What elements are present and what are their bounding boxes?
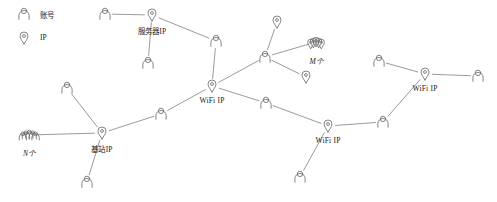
graph-node-wifi_ip_mid[interactable] <box>324 120 332 132</box>
person-icon <box>260 51 270 62</box>
pin-cluster-icon <box>308 37 325 49</box>
graph-node-pin_top_right[interactable] <box>273 16 281 28</box>
node-label-pin_cluster_m: M个 <box>309 55 322 66</box>
location-pin-icon <box>148 9 156 21</box>
location-pin-icon <box>273 16 281 28</box>
person-icon <box>82 176 92 187</box>
graph-edge <box>213 48 216 79</box>
graph-edge <box>272 44 309 55</box>
graph-edge <box>335 123 376 126</box>
person-icon <box>143 57 153 68</box>
person-icon <box>374 55 384 66</box>
graph-edge <box>267 29 274 50</box>
graph-edge <box>36 133 95 135</box>
graph-node-p_server_left[interactable] <box>100 8 110 19</box>
location-pin-icon <box>208 80 216 92</box>
person-icon <box>211 35 221 46</box>
node-label-wifi_ip_right: WiFi IP <box>412 84 437 93</box>
graph-edge <box>273 106 321 124</box>
location-pin-icon <box>98 127 106 139</box>
graph-node-p_mid_top[interactable] <box>211 35 221 46</box>
location-pin-icon <box>20 32 28 44</box>
graph-node-p_bs_upleft[interactable] <box>62 82 72 93</box>
graph-edge <box>386 63 418 72</box>
graph-edge <box>71 94 97 128</box>
graph-node-p_wifi3_top[interactable] <box>374 55 384 66</box>
graph-edge <box>219 88 259 101</box>
legend-item-0 <box>19 8 29 19</box>
graph-edge <box>109 116 154 131</box>
graph-node-server_ip[interactable] <box>148 9 156 21</box>
graph-edge <box>218 60 258 82</box>
graph-node-p_server_down[interactable] <box>143 57 153 68</box>
graph-node-wifi_ip_right[interactable] <box>421 68 429 80</box>
node-layer <box>19 8 483 187</box>
graph-node-p_bs_wifi[interactable] <box>156 108 166 119</box>
location-pin-icon <box>421 68 429 80</box>
graph-node-p_wifi2_top[interactable] <box>261 97 271 108</box>
node-label-wifi_ip_mid: WiFi IP <box>315 136 340 145</box>
graph-node-base_station_ip[interactable] <box>98 127 106 139</box>
location-pin-icon <box>302 71 310 83</box>
legend-label-1: IP <box>40 33 47 42</box>
graph-edge <box>432 74 471 75</box>
graph-node-p_wifi3_left[interactable] <box>378 116 388 127</box>
person-icon <box>295 171 305 182</box>
diagram-canvas <box>0 0 497 202</box>
graph-node-p_bs_down[interactable] <box>82 176 92 187</box>
graph-node-wifi_ip_center[interactable] <box>208 80 216 92</box>
legend-item-1 <box>20 32 28 44</box>
person-icon <box>156 108 166 119</box>
node-label-wifi_ip_center: WiFi IP <box>199 96 224 105</box>
network-diagram: 服务器IPWiFi IPM个WiFi IPWiFi IPN个基站IP账号IP <box>0 0 497 202</box>
node-label-group_n: N个 <box>23 147 35 158</box>
node-label-server_ip: 服务器IP <box>138 25 167 36</box>
graph-node-group_n[interactable] <box>19 130 39 140</box>
graph-node-p_far_right[interactable] <box>473 70 483 81</box>
graph-edge <box>112 14 145 15</box>
legend-label-0: 账号 <box>40 9 54 20</box>
person-icon <box>100 8 110 19</box>
person-icon <box>19 8 29 19</box>
graph-node-pin_low_right[interactable] <box>302 71 310 83</box>
graph-node-p_hub_right[interactable] <box>260 51 270 62</box>
person-icon <box>378 116 388 127</box>
person-icon <box>62 82 72 93</box>
node-label-base_station_ip: 基站IP <box>91 143 112 154</box>
location-pin-icon <box>324 120 332 132</box>
graph-node-p_wifi2_down[interactable] <box>295 171 305 182</box>
person-icon <box>261 97 271 108</box>
graph-edge <box>271 60 299 74</box>
person-icon <box>473 70 483 81</box>
person-group-icon <box>19 130 39 140</box>
graph-node-pin_cluster_m[interactable] <box>308 37 325 49</box>
